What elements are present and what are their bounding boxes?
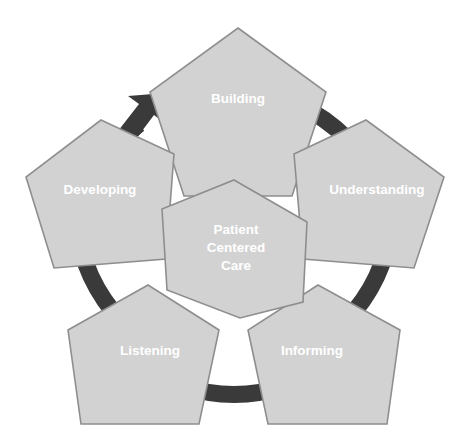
- node-center-label-line-2: Centered: [207, 240, 266, 255]
- node-developing-label: Developing: [64, 182, 137, 197]
- node-listening-label: Listening: [120, 343, 180, 358]
- node-developing[interactable]: Developing: [26, 120, 174, 268]
- node-center-patient-centered-care[interactable]: Patient Centered Care: [162, 180, 307, 318]
- node-understanding[interactable]: Understanding: [294, 120, 444, 268]
- node-center-label-line-1: Patient: [213, 222, 259, 237]
- node-listening[interactable]: Listening: [68, 285, 219, 424]
- diagram-canvas: Building Understanding Informing Listeni…: [0, 0, 469, 447]
- node-center-label-line-3: Care: [221, 258, 252, 273]
- node-understanding-label: Understanding: [329, 182, 424, 197]
- node-building-label: Building: [211, 91, 265, 106]
- patient-centered-care-diagram: Building Understanding Informing Listeni…: [0, 0, 469, 447]
- node-informing-label: Informing: [281, 343, 343, 358]
